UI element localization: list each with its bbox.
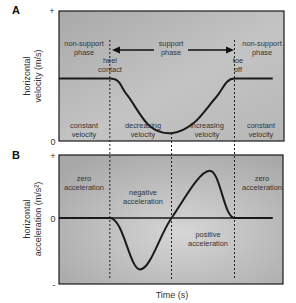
x-axis-title: Time (s) — [156, 290, 189, 300]
y-axis-title-b-line2: acceleration (m/s²) — [33, 182, 43, 257]
y-tick-plus-b: + — [50, 151, 55, 161]
y-axis-title-a-line1: horizontal — [22, 56, 32, 95]
label-decreasing-1: decreasing — [125, 121, 161, 130]
label-constant-left-1: constant — [70, 121, 98, 130]
label-toe-off-2: off — [234, 65, 243, 74]
label-zero-acc-right-1: zero — [255, 174, 269, 183]
label-zero-acc-left-1: zero — [77, 174, 91, 183]
y-axis-title-b-line1: horizontal — [22, 199, 32, 238]
label-positive-acc-1: positive — [195, 230, 220, 239]
label-non-support-right-1: non-support — [242, 39, 281, 48]
label-increasing-2: velocity — [195, 130, 220, 139]
y-tick-zero-b: 0 — [50, 214, 55, 224]
panel-a: A + 0 horizontal velocity (m/s) non-supp… — [12, 4, 284, 147]
panel-b: B + 0 - horizontal acceleration (m/s²) z… — [12, 149, 283, 290]
label-zero-acc-right-2: acceleration — [242, 183, 282, 192]
label-zero-acc-left-2: acceleration — [64, 183, 104, 192]
label-support-1: support — [159, 39, 184, 48]
label-constant-right-2: velocity — [249, 130, 274, 139]
label-non-support-right-2: phase — [252, 48, 272, 57]
y-tick-zero-a: 0 — [50, 137, 55, 147]
label-support-2: phase — [161, 48, 181, 57]
y-tick-plus-a: + — [49, 6, 54, 16]
label-decreasing-2: velocity — [131, 130, 156, 139]
figure: A + 0 horizontal velocity (m/s) non-supp… — [0, 0, 296, 303]
panel-letter-a: A — [12, 4, 20, 16]
panel-letter-b: B — [12, 149, 20, 161]
label-constant-right-1: constant — [247, 121, 275, 130]
label-negative-acc-1: negative — [129, 188, 157, 197]
label-positive-acc-2: acceleration — [188, 239, 228, 248]
y-axis-title-a-line2: velocity (m/s) — [33, 49, 43, 102]
label-non-support-left-2: phase — [74, 48, 94, 57]
label-constant-left-2: velocity — [72, 130, 97, 139]
y-tick-minus-b: - — [53, 280, 56, 290]
label-negative-acc-2: acceleration — [123, 197, 163, 206]
label-non-support-left-1: non-support — [64, 39, 103, 48]
